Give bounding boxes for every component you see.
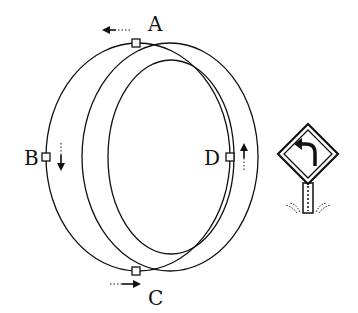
- handle-c: [132, 267, 140, 275]
- ellipses-diagram: [0, 0, 358, 313]
- handle-d: [226, 153, 234, 161]
- point-label-d: D: [204, 148, 220, 168]
- left-turn-road-sign-icon: [278, 124, 338, 213]
- handle-a: [132, 39, 140, 47]
- outer-left-ellipse: [46, 43, 230, 271]
- diagram-canvas: A B C D: [0, 0, 358, 313]
- point-label-c: C: [148, 288, 163, 308]
- arrow-down-icon: [57, 143, 65, 171]
- handle-b: [42, 153, 50, 161]
- arrow-left-icon: [102, 26, 130, 34]
- arrow-up-icon: [240, 143, 248, 172]
- point-label-b: B: [24, 148, 39, 168]
- point-label-a: A: [148, 14, 162, 34]
- arrow-right-icon: [110, 280, 141, 288]
